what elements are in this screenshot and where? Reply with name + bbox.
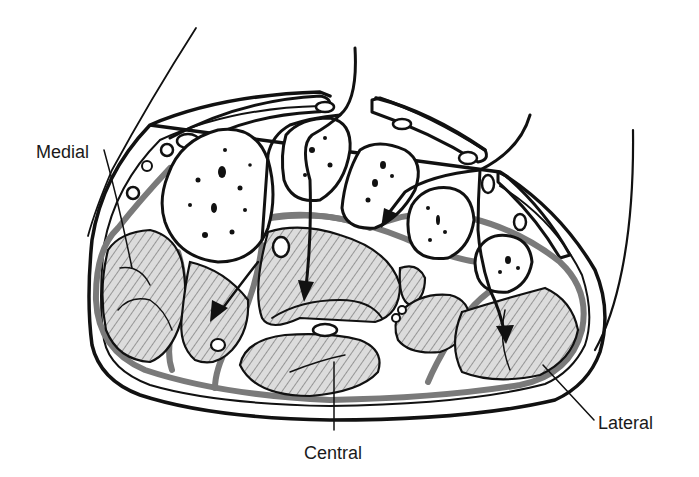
bone-carpal-3 [408,188,474,259]
label-central: Central [304,444,362,462]
tendon-small [514,214,526,230]
vessel [398,306,406,314]
muscle-medial [102,230,185,362]
vessel [392,314,400,322]
bone-carpal-1 [282,118,350,201]
tendon-small [393,119,411,129]
vessel [127,187,139,199]
vessel [313,324,337,336]
leader-line-lateral [543,365,594,420]
bone-ulna-large [162,129,273,262]
vessel [273,237,289,257]
label-lateral: Lateral [598,414,653,432]
tendon-small [316,102,334,112]
vessel [211,339,225,351]
cross-section-illustration [0,0,699,477]
right-outline-line [595,130,633,350]
tendon-small [459,152,477,164]
vessel [161,144,173,156]
tendon-small [482,175,494,193]
label-medial: Medial [36,143,89,161]
vessel [142,161,152,171]
